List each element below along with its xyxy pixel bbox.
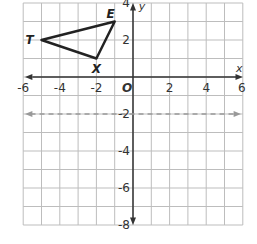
y-axis-label: y [138,0,146,13]
dashed-line-arrow-left-icon [25,111,32,117]
x-tick-label: -6 [17,81,29,95]
x-tick-label: -4 [54,81,66,95]
origin-label: O [122,81,132,95]
x-tick-label: 4 [202,81,210,95]
x-tick-label: -2 [90,81,102,95]
vertex-label-t: T [25,33,34,47]
y-axis-arrow-up-icon [130,3,136,10]
y-tick-label: -8 [118,218,130,232]
y-axis-arrow-down-icon [130,218,136,225]
coordinate-plane: -6-4-2246O42-2-4-6-8xyTEX [0,0,257,244]
x-tick-label: 2 [166,81,174,95]
dashed-line-arrow-right-icon [234,111,241,117]
y-tick-label: -4 [118,144,130,158]
y-tick-label: -6 [118,181,130,195]
x-axis-arrow-left-icon [25,74,32,80]
x-tick-label: 6 [238,81,246,95]
vertex-label-x: X [91,62,102,76]
y-tick-label: 4 [122,0,130,10]
x-axis-label: x [235,62,243,75]
y-tick-label: -2 [118,107,130,121]
vertex-label-e: E [107,7,116,21]
y-tick-label: 2 [122,33,130,47]
